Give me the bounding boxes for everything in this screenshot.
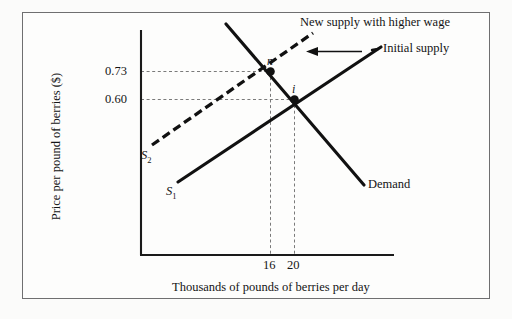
figure-container: 0.73 0.60 16 20 Price per pound of berri… — [0, 0, 512, 319]
series-label-s2: S2 — [141, 148, 152, 165]
initial-supply-curve — [178, 47, 381, 182]
demand-label: Demand — [368, 177, 410, 192]
series-label-s1-subscript: 1 — [172, 191, 176, 201]
x-tick-label-16: 16 — [263, 258, 276, 273]
point-label-i: i — [292, 82, 295, 97]
supply-shift-arrow-head — [306, 47, 318, 56]
x-axis-title: Thousands of pounds of berries per day — [172, 280, 370, 295]
point-label-n: n — [267, 54, 273, 69]
x-tick-label-20: 20 — [287, 258, 300, 273]
initial-supply-label: Initial supply — [383, 41, 449, 56]
new-supply-curve — [152, 33, 313, 145]
new-supply-label: New supply with higher wage — [300, 15, 450, 30]
y-tick-label-073: 0.73 — [105, 64, 127, 79]
y-axis-title: Price per pound of berries ($) — [49, 47, 64, 247]
series-label-s2-subscript: 2 — [147, 155, 151, 165]
series-label-s1: S1 — [166, 184, 177, 201]
y-tick-label-060: 0.60 — [105, 92, 127, 107]
initial-supply-leader — [372, 49, 378, 50]
